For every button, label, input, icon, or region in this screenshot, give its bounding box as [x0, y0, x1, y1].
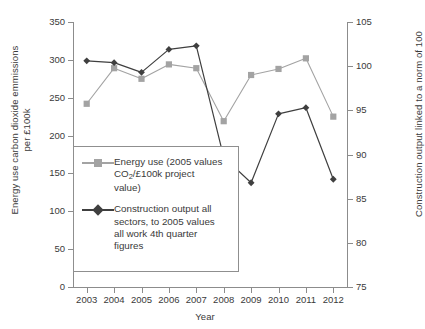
- data-point-diamond: [303, 104, 310, 111]
- legend-construction-line2: sectors, to 2005 values: [114, 216, 215, 227]
- y-tick-right: [348, 243, 353, 244]
- data-point-diamond: [83, 57, 90, 64]
- legend-energy-line3: value): [114, 182, 141, 193]
- x-tick: [306, 288, 307, 293]
- y-axis-left-title-line2: per £100k: [21, 108, 32, 151]
- data-point-square: [221, 118, 227, 124]
- data-point-square: [330, 114, 336, 120]
- y-tick-right: [348, 22, 353, 23]
- data-point-diamond: [193, 42, 200, 49]
- data-point-diamond: [248, 179, 255, 186]
- y-tick-label-left: 50: [33, 243, 65, 254]
- y-tick-right: [348, 199, 353, 200]
- diamond-marker-icon: [82, 204, 114, 216]
- y-tick-label-left: 350: [33, 16, 65, 27]
- y-tick-label-right: 90: [356, 149, 388, 160]
- y-tick-label-left: 250: [33, 92, 65, 103]
- legend-item-construction-output: Construction output all sectors, to 2005…: [82, 203, 230, 253]
- y-tick-left: [68, 136, 73, 137]
- data-point-square: [111, 65, 117, 71]
- x-tick: [251, 288, 252, 293]
- x-tick: [224, 288, 225, 293]
- y-tick-label-right: 80: [356, 237, 388, 248]
- x-tick: [279, 288, 280, 293]
- x-tick-label: 2012: [316, 294, 350, 305]
- legend-energy-line2-post: /£100k project: [133, 168, 195, 179]
- y-tick-label-left: 100: [33, 205, 65, 216]
- x-tick: [114, 288, 115, 293]
- square-marker-icon: [82, 157, 114, 169]
- legend-energy-line1: Energy use (2005 values: [114, 156, 222, 167]
- data-point-diamond: [330, 176, 337, 183]
- legend-label-energy-use: Energy use (2005 values CO2/£100k projec…: [114, 156, 230, 194]
- x-tick: [196, 288, 197, 293]
- chart-legend: Energy use (2005 values CO2/£100k projec…: [73, 146, 239, 272]
- y-tick-label-right: 105: [356, 16, 388, 27]
- series-line: [87, 58, 334, 121]
- data-point-diamond: [138, 69, 145, 76]
- y-tick-label-left: 150: [33, 167, 65, 178]
- y-tick-label-left: 0: [33, 281, 65, 292]
- series-energy-use: [84, 55, 337, 124]
- y-tick-left: [68, 98, 73, 99]
- y-tick-left: [68, 60, 73, 61]
- y-tick-right: [348, 287, 353, 288]
- y-axis-left-title: Energy use carbon dioxide emmissions per…: [9, 25, 33, 235]
- y-tick-label-left: 300: [33, 54, 65, 65]
- x-tick: [87, 288, 88, 293]
- y-tick-label-right: 95: [356, 104, 388, 115]
- data-point-square: [84, 101, 90, 107]
- legend-energy-line2-sub: 2: [129, 172, 133, 181]
- y-tick-label-right: 75: [356, 281, 388, 292]
- y-axis-right-title: Construction output linked to a norm of …: [413, 19, 425, 229]
- data-point-square: [193, 65, 199, 71]
- data-point-square: [138, 76, 144, 82]
- data-point-square: [166, 61, 172, 67]
- y-tick-label-right: 85: [356, 193, 388, 204]
- data-point-square: [248, 72, 254, 78]
- y-axis-left-title-line1: Energy use carbon dioxide emmissions: [9, 46, 20, 215]
- legend-construction-line4: figures: [114, 240, 143, 251]
- legend-construction-line3: all work 4th quarter: [114, 228, 197, 239]
- x-axis-title: Year: [60, 311, 350, 323]
- data-point-diamond: [166, 46, 173, 53]
- legend-label-construction-output: Construction output all sectors, to 2005…: [114, 203, 230, 253]
- data-point-diamond: [275, 110, 282, 117]
- y-tick-left: [68, 22, 73, 23]
- legend-item-energy-use: Energy use (2005 values CO2/£100k projec…: [82, 156, 230, 194]
- y-tick-label-right: 100: [356, 60, 388, 71]
- data-point-square: [303, 55, 309, 61]
- x-tick: [169, 288, 170, 293]
- legend-construction-line1: Construction output all: [114, 203, 211, 214]
- y-tick-label-left: 200: [33, 130, 65, 141]
- y-tick-right: [348, 155, 353, 156]
- y-tick-right: [348, 66, 353, 67]
- data-point-diamond: [111, 59, 118, 66]
- y-tick-left: [68, 287, 73, 288]
- y-tick-right: [348, 110, 353, 111]
- x-tick: [333, 288, 334, 293]
- x-tick: [142, 288, 143, 293]
- data-point-square: [275, 66, 281, 72]
- legend-energy-line2-pre: CO: [114, 168, 129, 179]
